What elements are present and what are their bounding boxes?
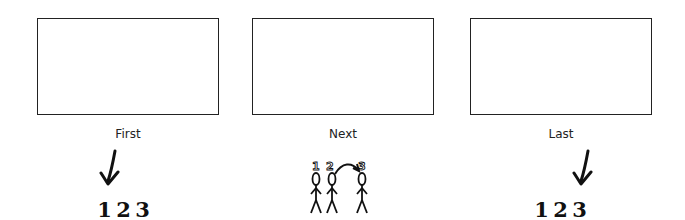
number-2: 2	[114, 197, 133, 220]
number-3: 3	[133, 197, 152, 220]
down-arrow-icon	[99, 148, 123, 188]
drawing-box-next[interactable]	[252, 18, 434, 115]
label-last: Last	[470, 127, 652, 141]
svg-text:1: 1	[312, 160, 320, 173]
sequence-last: 123	[532, 197, 589, 220]
drawing-box-first[interactable]	[37, 18, 219, 115]
number-1: 1	[532, 197, 551, 220]
drawing-box-last[interactable]	[470, 18, 652, 115]
number-2: 2	[551, 197, 570, 220]
down-arrow-icon	[572, 148, 596, 188]
label-next: Next	[252, 127, 434, 141]
number-3: 3	[570, 197, 589, 220]
stick-figures-icon: 1 2 3	[308, 160, 380, 215]
sequence-first: 123	[95, 197, 152, 220]
label-first: First	[37, 127, 219, 141]
svg-text:2: 2	[326, 160, 334, 173]
number-1: 1	[95, 197, 114, 220]
